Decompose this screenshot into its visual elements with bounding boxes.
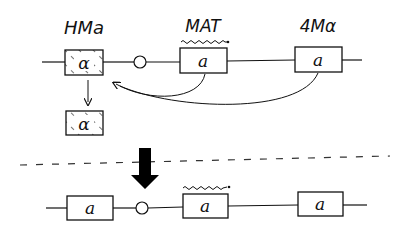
big-down-arrow-icon bbox=[131, 148, 159, 189]
bottom-centromere-icon bbox=[136, 202, 148, 214]
bottom-line-seg3 bbox=[148, 207, 183, 208]
mating-type-diagram: α a a HMa MAT 4Mα α bbox=[0, 0, 409, 235]
hm-left-label: HMa bbox=[64, 17, 104, 38]
hm-right-box: a bbox=[295, 47, 342, 72]
bottom-mat-box: a bbox=[183, 194, 228, 218]
curved-arrow-from-mat-icon bbox=[116, 74, 205, 96]
bottom-hm-left-box-text: a bbox=[85, 198, 95, 218]
bottom-hm-right-box-text: a bbox=[315, 194, 325, 214]
copy-box: α bbox=[66, 111, 103, 135]
hm-right-label: 4Mα bbox=[300, 16, 337, 36]
centromere-icon bbox=[134, 56, 146, 68]
mat-label: MAT bbox=[185, 16, 222, 36]
transcription-arrow-tip-icon bbox=[227, 41, 230, 44]
bottom-hm-left-box: a bbox=[67, 196, 113, 220]
bottom-transcription-arrow-tip-icon bbox=[228, 186, 231, 189]
divider-dashed-line bbox=[20, 156, 390, 165]
curved-arrow-from-hm-right-icon bbox=[120, 73, 318, 104]
bottom-line-seg4 bbox=[228, 205, 298, 206]
top-line-seg4 bbox=[227, 60, 295, 61]
mat-box-text: a bbox=[198, 51, 208, 71]
bottom-chromosome: a a a bbox=[46, 186, 367, 220]
transcription-wave-icon bbox=[181, 41, 228, 44]
bottom-transcription-wave-icon bbox=[183, 187, 227, 190]
bottom-hm-right-box: a bbox=[298, 192, 343, 216]
hm-left-box: α bbox=[65, 50, 103, 75]
mat-box: a bbox=[180, 48, 227, 73]
top-chromosome: α a a HMa MAT 4Mα α bbox=[42, 16, 362, 135]
hm-right-box-text: a bbox=[313, 50, 323, 70]
hm-left-box-text: α bbox=[78, 53, 90, 73]
copy-box-text: α bbox=[78, 114, 90, 134]
bottom-mat-box-text: a bbox=[200, 196, 210, 216]
